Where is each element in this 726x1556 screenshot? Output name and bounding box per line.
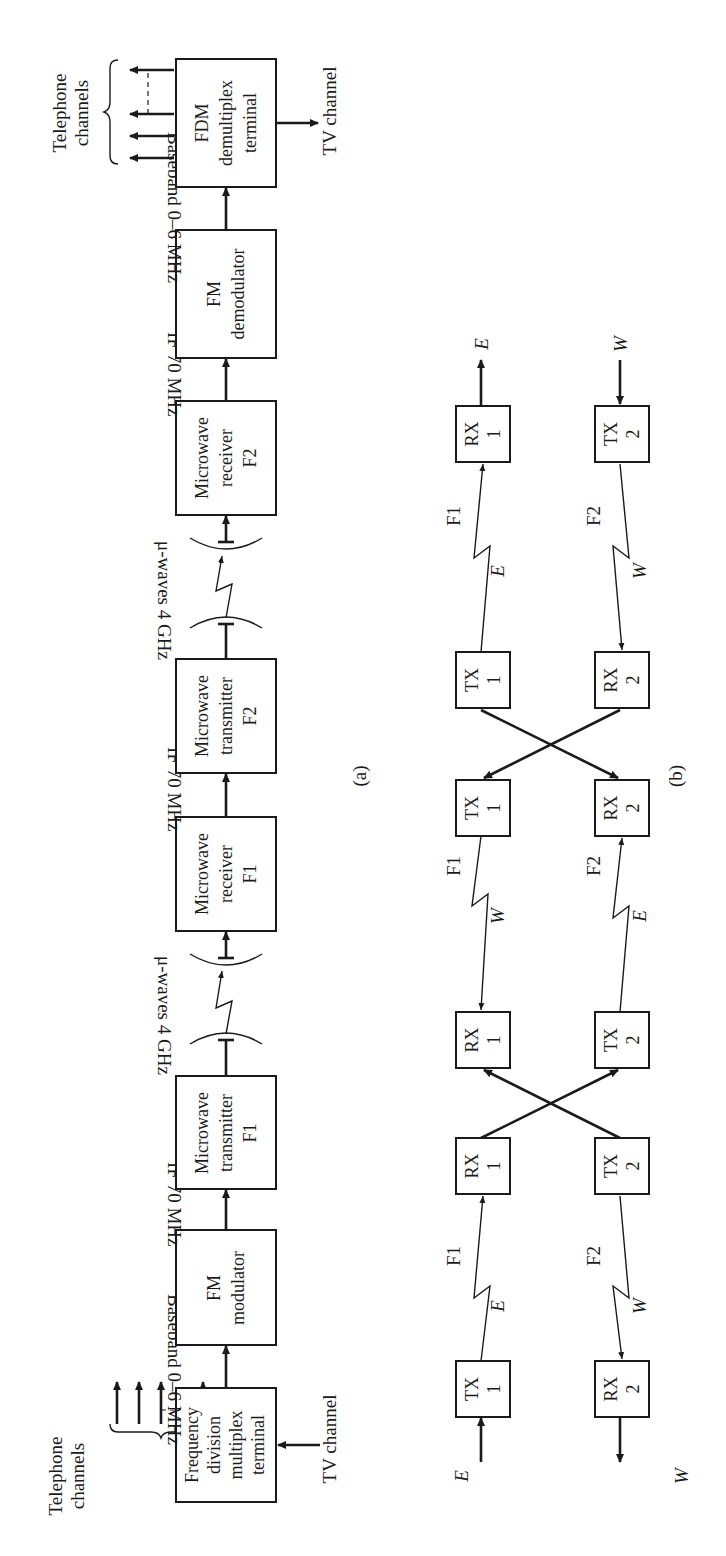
svg-text:1: 1 (484, 804, 504, 813)
svg-text:F1: F1 (240, 1123, 260, 1142)
svg-text:F1: F1 (443, 856, 464, 876)
svg-text:W: W (629, 1296, 650, 1314)
svg-text:E: E (487, 565, 508, 578)
svg-text:F2: F2 (583, 506, 604, 526)
svg-text:TX: TX (601, 1154, 621, 1178)
terminal-right-bottom-label: W (610, 334, 631, 352)
svg-text:F2: F2 (583, 856, 604, 876)
input-channels-label: channels (67, 1443, 88, 1509)
svg-text:demultiplex: demultiplex (216, 80, 236, 166)
svg-text:F2: F2 (240, 448, 260, 467)
input-telephone-label: Telephone (45, 1437, 66, 1516)
svg-text:F1: F1 (443, 506, 464, 526)
svg-text:terminal: terminal (248, 1415, 268, 1475)
svg-text:2: 2 (623, 676, 643, 685)
svg-text:F1: F1 (240, 864, 260, 883)
station-col-6: RX 1 TX 2 (456, 406, 649, 462)
svg-text:Microwave: Microwave (192, 417, 212, 499)
svg-text:2: 2 (623, 804, 643, 813)
svg-text:division: division (204, 1416, 224, 1474)
station-col-3: RX 1 TX 2 (456, 1012, 649, 1068)
svg-text:modulator: modulator (228, 1251, 248, 1325)
svg-text:F2: F2 (240, 706, 260, 725)
svg-text:E: E (629, 910, 650, 923)
terminal-right-top-label: E (471, 338, 492, 351)
svg-text:Microwave: Microwave (192, 675, 212, 757)
block-microwave-transmitter-f1: Microwave transmitter F1 (176, 1076, 276, 1189)
svg-text:Microwave: Microwave (192, 833, 212, 915)
svg-text:RX: RX (462, 1153, 482, 1178)
tv-output-label: TV channel (319, 67, 340, 156)
svg-text:receiver: receiver (216, 845, 236, 903)
part-a-label: (a) (349, 765, 371, 786)
microwave-hop-1: μ-waves 4 GHz (154, 932, 262, 1076)
station-col-4: TX 1 RX 2 (456, 780, 649, 836)
output-channels-label: channels (71, 80, 92, 146)
svg-text:transmitter: transmitter (216, 1094, 236, 1172)
svg-text:W: W (487, 906, 508, 924)
block-fdm-multiplex: Frequency division multiplex terminal (176, 1388, 276, 1502)
radio-hop-1: E F1 W F2 (443, 1196, 650, 1361)
svg-text:TX: TX (601, 422, 621, 446)
terminal-left-bottom-label: W (671, 1466, 692, 1484)
svg-text:receiver: receiver (216, 429, 236, 487)
block-microwave-receiver-f2: Microwave receiver F2 (176, 401, 276, 515)
microwave-label-2: μ-waves 4 GHz (154, 541, 175, 660)
part-b-label: (b) (665, 765, 687, 787)
station-col-5: TX 1 RX 2 (456, 652, 649, 708)
svg-text:transmitter: transmitter (216, 677, 236, 755)
radio-hop-3: E F1 W F2 (443, 464, 650, 652)
svg-text:terminal: terminal (240, 93, 260, 153)
station-col-2: RX 1 TX 2 (456, 1138, 649, 1194)
figure-canvas: Telephone channels Frequency division mu… (0, 0, 726, 1556)
svg-text:FM: FM (204, 281, 224, 307)
svg-text:Microwave: Microwave (192, 1092, 212, 1174)
svg-text:TX: TX (462, 668, 482, 692)
svg-text:2: 2 (623, 1385, 643, 1394)
block-fdm-demultiplex: FDM demultiplex terminal (176, 59, 276, 187)
svg-text:W: W (629, 561, 650, 579)
svg-text:2: 2 (623, 1036, 643, 1045)
svg-text:FDM: FDM (192, 103, 212, 142)
output-telephone-channels: Telephone channels (49, 60, 174, 164)
svg-text:E: E (487, 1300, 508, 1313)
svg-text:demodulator: demodulator (228, 249, 248, 340)
part-b-relay-chain-diagram: E W TX 1 RX 2 E F1 W F2 (443, 334, 692, 1484)
svg-text:TX: TX (601, 1028, 621, 1052)
svg-text:1: 1 (484, 1385, 504, 1394)
radio-hop-2: W F1 E F2 (443, 836, 650, 1012)
svg-text:2: 2 (623, 1162, 643, 1171)
terminal-left-top-label: E (451, 1470, 472, 1483)
block-fm-demodulator: FM demodulator (176, 230, 276, 358)
station-col-1: TX 1 RX 2 (456, 1361, 649, 1417)
svg-text:FM: FM (204, 1275, 224, 1301)
svg-text:TX: TX (462, 796, 482, 820)
microwave-label-1: μ-waves 4 GHz (154, 956, 175, 1075)
svg-text:RX: RX (601, 795, 621, 820)
svg-text:RX: RX (601, 1376, 621, 1401)
brace-icon (104, 60, 118, 164)
microwave-hop-2: μ-waves 4 GHz (154, 516, 262, 660)
svg-text:F2: F2 (583, 1246, 604, 1266)
svg-text:1: 1 (484, 430, 504, 439)
svg-text:2: 2 (623, 430, 643, 439)
block-microwave-transmitter-f2: Microwave transmitter F2 (176, 659, 276, 773)
part-a-system-diagram: Telephone channels Frequency division mu… (45, 59, 371, 1515)
svg-text:RX: RX (462, 1027, 482, 1052)
block-microwave-receiver-f1: Microwave receiver F1 (176, 817, 276, 931)
lightning-link-icon (216, 556, 232, 618)
output-telephone-label: Telephone (49, 74, 70, 153)
svg-text:RX: RX (462, 421, 482, 446)
tv-input-label: TV channel (319, 1395, 340, 1484)
svg-text:1: 1 (484, 1036, 504, 1045)
lightning-link-icon (216, 971, 232, 1034)
svg-text:multiplex: multiplex (226, 1411, 246, 1480)
svg-text:F1: F1 (443, 1246, 464, 1266)
svg-text:1: 1 (484, 1162, 504, 1171)
block-fm-modulator: FM modulator (176, 1230, 276, 1345)
svg-text:TX: TX (462, 1377, 482, 1401)
svg-text:1: 1 (484, 676, 504, 685)
svg-text:RX: RX (601, 667, 621, 692)
